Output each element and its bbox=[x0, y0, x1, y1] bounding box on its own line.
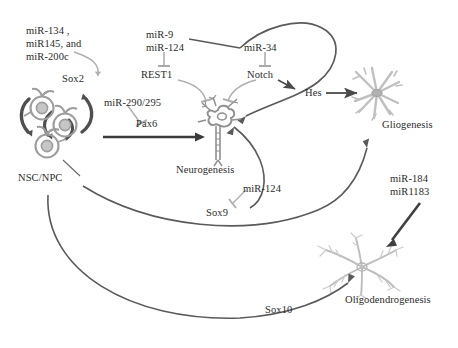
nsc-label-leader bbox=[63, 160, 80, 176]
edge-notch-inhibits-neurogenesis bbox=[223, 80, 256, 102]
astrocyte-cell bbox=[352, 68, 402, 120]
label-mir-290-295: miR-290/295 bbox=[104, 96, 161, 109]
label-sox10: Sox10 bbox=[265, 303, 292, 316]
edge-rest1-inhibits-neurogenesis bbox=[178, 80, 212, 102]
label-mir-145: miR145, and bbox=[26, 37, 81, 50]
label-hes: Hes bbox=[305, 86, 322, 99]
label-pax6: Pax6 bbox=[136, 117, 157, 130]
label-mir-34: miR-34 bbox=[244, 41, 277, 54]
label-rest1: REST1 bbox=[141, 68, 172, 81]
label-gliogenesis: Gliogenesis bbox=[382, 118, 433, 131]
pathway-diagram-canvas: miR-134 , miR145, and miR-200c Sox2 NSC/… bbox=[0, 0, 458, 348]
label-nsc-npc: NSC/NPC bbox=[18, 171, 62, 184]
label-mir-124-sox9: miR-124 bbox=[243, 182, 281, 195]
neural-stem-cell-3 bbox=[36, 127, 67, 158]
label-mir-9: miR-9 bbox=[146, 28, 173, 41]
label-mir-124-top: miR-124 bbox=[146, 41, 184, 54]
label-mir-134: miR-134 , bbox=[26, 24, 70, 37]
edge-notch-to-hes bbox=[278, 80, 295, 89]
label-mir-200c: miR-200c bbox=[26, 50, 69, 63]
label-oligodendrogenesis: Oligodendrogenesis bbox=[345, 293, 431, 306]
label-mir-1183: miR1183 bbox=[390, 185, 429, 198]
edge-pax6-to-neurogenesis bbox=[103, 132, 205, 141]
edge-mir184-1183-to-oligodendrogenesis bbox=[386, 203, 420, 247]
label-neurogenesis: Neurogenesis bbox=[176, 163, 234, 176]
label-sox9: Sox9 bbox=[206, 206, 228, 219]
neuron-cell bbox=[198, 95, 241, 166]
edge-mir34-inhibits-notch bbox=[259, 52, 271, 66]
label-mir-184: miR-184 bbox=[390, 172, 428, 185]
label-notch: Notch bbox=[247, 68, 273, 81]
edge-mir9-124-inhibits-rest1 bbox=[158, 52, 170, 66]
label-sox2: Sox2 bbox=[62, 72, 84, 85]
